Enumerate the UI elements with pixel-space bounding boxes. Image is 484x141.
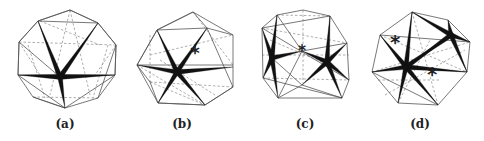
star-spike xyxy=(404,12,412,67)
hidden-edge xyxy=(19,42,40,75)
edge xyxy=(115,45,116,75)
star-spike xyxy=(398,66,408,103)
edge xyxy=(262,16,330,28)
hidden-edge xyxy=(277,15,330,16)
star-spike xyxy=(38,21,62,78)
star-spike xyxy=(412,12,452,37)
panel-label-c: (c) xyxy=(296,117,315,131)
star-spike xyxy=(158,71,179,103)
star-center xyxy=(448,32,453,37)
star-center xyxy=(324,59,329,64)
asterisk-icon: * xyxy=(190,42,200,63)
edge xyxy=(207,28,233,87)
edge xyxy=(70,10,98,23)
edge xyxy=(18,42,19,75)
polyhedron-b: * xyxy=(137,12,233,105)
edge xyxy=(205,87,233,105)
star-spike xyxy=(60,75,115,80)
star-spike xyxy=(302,60,329,85)
edge xyxy=(157,28,207,30)
star-center xyxy=(174,69,179,74)
asterisk-icon: * xyxy=(298,42,306,60)
edge xyxy=(18,75,65,108)
edge xyxy=(158,103,205,105)
hidden-edge xyxy=(19,42,116,45)
polyhedron-a xyxy=(18,10,116,108)
panel-label-a: (a) xyxy=(55,117,74,131)
star-spike xyxy=(175,70,205,105)
edge xyxy=(65,75,115,108)
edge xyxy=(193,12,207,28)
edge xyxy=(137,30,157,65)
edge xyxy=(38,21,98,23)
hidden-edge xyxy=(150,82,205,105)
star-center xyxy=(269,55,274,60)
hidden-edge xyxy=(33,97,98,98)
edge xyxy=(157,12,193,30)
polyhedron-c: * xyxy=(262,10,349,98)
star-spike xyxy=(372,65,406,72)
asterisk-icon: * xyxy=(390,31,400,54)
hidden-edge xyxy=(95,45,116,75)
edge xyxy=(302,85,342,98)
panel-label-b: (b) xyxy=(172,117,192,131)
star-center xyxy=(57,74,62,79)
edge xyxy=(98,23,116,45)
star-spike xyxy=(177,67,233,74)
hidden-edge xyxy=(28,45,45,98)
edge xyxy=(33,97,65,108)
edge xyxy=(19,21,38,42)
star-spike xyxy=(58,23,98,78)
hidden-edge xyxy=(150,82,233,87)
star-spike xyxy=(18,75,60,80)
edge xyxy=(38,10,70,21)
asterisk-icon: * xyxy=(427,63,437,86)
panel-label-d: (d) xyxy=(410,117,430,131)
edge xyxy=(207,28,233,35)
polyhedron-d: ** xyxy=(372,12,470,105)
star-spike xyxy=(157,30,179,73)
